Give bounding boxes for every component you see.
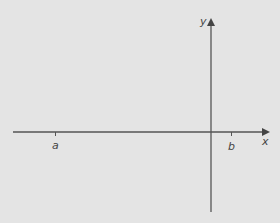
x-axis-label: x: [261, 135, 269, 148]
tick-label-a: a: [52, 139, 59, 152]
coordinate-axes-diagram: a b x y: [0, 0, 280, 223]
y-axis-label: y: [199, 15, 207, 28]
tick-label-b: b: [228, 140, 235, 153]
